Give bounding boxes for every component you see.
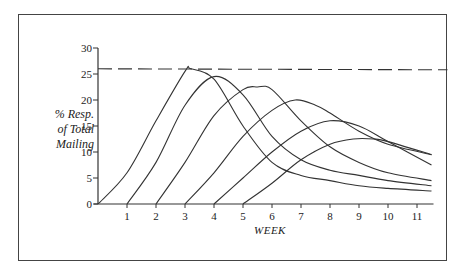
curve-series-1	[98, 66, 432, 204]
response-curves	[98, 66, 432, 204]
x-tick-label: 10	[383, 210, 395, 222]
x-tick-label: 9	[356, 210, 362, 222]
x-axis-label: WEEK	[254, 224, 286, 236]
x-tick-label: 3	[182, 210, 188, 222]
y-axis-label: % Resp. of Total Mailing	[30, 107, 94, 152]
x-tick-label: 11	[412, 210, 423, 222]
x-tick-label: 7	[298, 210, 304, 222]
y-tick-label: 20	[81, 94, 93, 106]
x-tick-label: 6	[269, 210, 275, 222]
x-tick-label: 5	[240, 210, 246, 222]
y-tick-label: 25	[81, 68, 93, 80]
y-axis-label-line-1: % Resp.	[30, 107, 94, 122]
x-tick-label: 4	[211, 210, 217, 222]
reference-dashed-line	[98, 69, 448, 70]
axes: 0510152025301234567891011	[81, 42, 448, 222]
y-axis-label-line-3: Mailing	[30, 137, 94, 152]
x-tick-label: 2	[153, 210, 159, 222]
y-tick-label: 5	[87, 172, 93, 184]
x-tick-label: 8	[327, 210, 333, 222]
x-tick-label: 1	[124, 210, 130, 222]
y-tick-label: 30	[81, 42, 93, 54]
y-axis-label-line-2: of Total	[30, 122, 94, 137]
y-tick-label: 0	[87, 198, 93, 210]
